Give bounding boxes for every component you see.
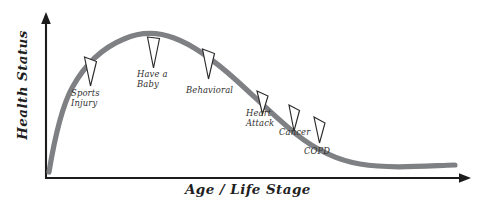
health-status-curve [49, 34, 455, 172]
event-label-have-a-baby: Have a Baby [137, 69, 168, 90]
event-notch-have-a-baby [148, 37, 160, 68]
x-axis-title: Age / Life Stage [185, 181, 311, 197]
event-label-copd: COPD [304, 146, 330, 156]
y-axis-arrowhead [41, 12, 51, 24]
health-status-life-stage-figure: Health Status Age / Life Stage Sports In… [0, 0, 490, 204]
event-notch-behavioral [203, 49, 215, 79]
event-notch-copd [314, 117, 325, 143]
y-axis-title: Health Status [14, 30, 30, 140]
y-axis [41, 12, 51, 178]
event-label-cancer: Cancer [279, 127, 310, 137]
event-label-sports-injury: Sports Injury [71, 88, 100, 109]
event-label-heart-attack: Heart Attack [246, 108, 274, 129]
event-notch-sports-injury [85, 57, 97, 86]
event-label-behavioral: Behavioral [186, 85, 233, 95]
x-axis-arrowhead [459, 173, 471, 183]
